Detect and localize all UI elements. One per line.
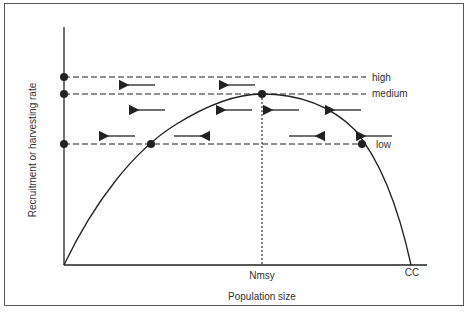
msy-point <box>258 90 266 98</box>
medium-label: medium <box>372 88 408 99</box>
high-label: high <box>372 72 391 83</box>
low-stable-point <box>358 140 366 148</box>
low-axis-point <box>60 140 68 148</box>
x-axis-title: Population size <box>228 291 296 302</box>
high-axis-point <box>60 73 68 81</box>
diagram-canvas: high medium low Nmsy CC Population size … <box>0 0 470 318</box>
nmsy-tick-label: Nmsy <box>249 270 275 281</box>
recruitment-curve <box>64 94 411 265</box>
low-label: low <box>376 139 392 150</box>
cc-tick-label: CC <box>405 267 419 278</box>
medium-axis-point <box>60 90 68 98</box>
low-unstable-point <box>147 140 155 148</box>
y-axis-title: Recruitment or harvesting rate <box>27 82 38 217</box>
